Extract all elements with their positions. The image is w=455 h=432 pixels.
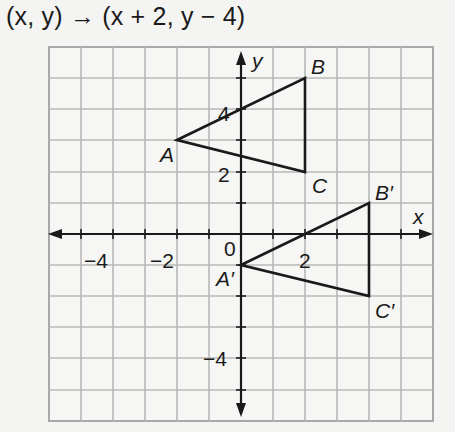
vertex-label-c: C	[312, 174, 328, 197]
y-tick-label-4: 4	[218, 102, 230, 125]
origin-label: 0	[224, 237, 236, 260]
x-tick-label-neg2: −2	[150, 249, 174, 272]
x-tick-label-neg4: −4	[84, 249, 108, 272]
vertex-label-a: A	[158, 143, 174, 166]
coordinate-grid: y x 0 −4 −2 2 4 2 −4 A B C A′ B′ C′	[0, 0, 455, 432]
x-tick-label-2: 2	[299, 249, 311, 272]
y-tick-label-neg4: −4	[203, 347, 227, 370]
vertex-label-b-prime: B′	[375, 181, 394, 204]
y-tick-label-2: 2	[218, 163, 230, 186]
y-axis-label: y	[250, 49, 264, 72]
vertex-label-b: B	[311, 55, 325, 78]
vertex-label-c-prime: C′	[375, 299, 395, 322]
x-axis-label: x	[412, 205, 425, 228]
vertex-label-a-prime: A′	[214, 267, 235, 290]
